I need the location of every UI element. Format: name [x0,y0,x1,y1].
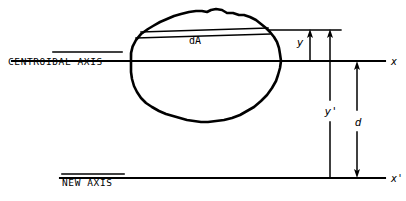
dimension-y-label: y [296,36,304,49]
axis-x-prime-label: x' [390,173,403,184]
new-axis-label: NEW AXIS [62,177,113,188]
axis-x-label: x [390,56,397,67]
parallel-axis-diagram: CENTROIDAL AXIS NEW AXIS dA y y' d x x' [0,0,406,201]
dimension-y-prime-label: y' [323,105,337,118]
dimension-d-label: d [355,116,362,129]
dimension-y-prime [327,29,333,178]
da-label: dA [189,35,201,46]
diagram-canvas: CENTROIDAL AXIS NEW AXIS dA y y' d x x' [0,0,406,201]
irregular-area-shape [131,9,281,122]
dimension-y [307,29,313,61]
centroidal-axis-label: CENTROIDAL AXIS [8,56,103,67]
